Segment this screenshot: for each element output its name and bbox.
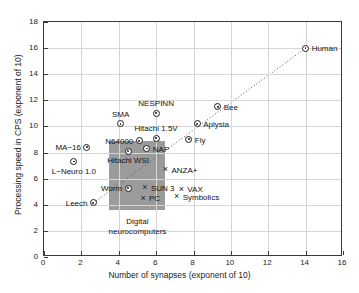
- y-gridline: [44, 126, 341, 127]
- data-point-label: Symbolics: [183, 192, 219, 201]
- data-point-marker: [125, 148, 132, 155]
- y-gridline: [44, 100, 341, 101]
- y-tick-label: 18: [16, 17, 38, 26]
- x-tick-label: 12: [263, 258, 272, 267]
- data-point-marker: ×: [140, 195, 147, 202]
- data-point-marker: ×: [162, 166, 169, 173]
- data-point-marker: [153, 110, 160, 117]
- y-tick-label: 4: [16, 199, 38, 208]
- data-point-label: ANZA+: [171, 165, 197, 174]
- y-gridline: [44, 231, 341, 232]
- y-gridline: [44, 48, 341, 49]
- x-tick: [44, 251, 45, 255]
- x-tick-label: 8: [190, 258, 194, 267]
- y-tick-label: 6: [16, 173, 38, 182]
- y-tick-label: 12: [16, 95, 38, 104]
- data-point-marker: [302, 45, 309, 52]
- region-label: Digitalneurocomputers: [109, 217, 167, 237]
- data-point-label: Hitachi WSI: [107, 156, 149, 165]
- region-label-line1: Digital: [126, 217, 148, 226]
- x-gridline: [306, 22, 307, 255]
- data-point-label: Fly: [195, 135, 206, 144]
- data-point-label: Bee: [224, 102, 238, 111]
- x-tick: [231, 251, 232, 255]
- y-tick-label: 16: [16, 43, 38, 52]
- plot-area: DigitalneurocomputersLeechFlyAplysiaBeeH…: [43, 21, 342, 256]
- x-tick-label: 4: [116, 258, 120, 267]
- x-tick: [343, 251, 344, 255]
- y-tick-label: 0: [16, 252, 38, 261]
- data-point-label: SUN 3: [151, 183, 175, 192]
- x-tick-label: 16: [338, 258, 347, 267]
- y-tick: [44, 48, 48, 49]
- data-point-marker: [153, 135, 160, 142]
- y-tick: [44, 153, 48, 154]
- y-tick: [44, 231, 48, 232]
- chart-figure: DigitalneurocomputersLeechFlyAplysiaBeeH…: [0, 0, 359, 293]
- y-tick: [44, 126, 48, 127]
- y-axis-title: Processing speed in CPS (exponent of 10): [13, 54, 23, 215]
- data-point-marker: ×: [141, 184, 148, 191]
- data-point-marker: [125, 185, 132, 192]
- y-gridline: [44, 74, 341, 75]
- data-point-label: Hitachi 1.5V: [135, 124, 178, 133]
- x-tick-label: 10: [225, 258, 234, 267]
- data-point-label: Leech: [66, 198, 88, 207]
- x-tick: [268, 251, 269, 255]
- y-tick-label: 8: [16, 147, 38, 156]
- y-tick-label: 14: [16, 69, 38, 78]
- y-tick: [44, 100, 48, 101]
- x-gridline: [268, 22, 269, 255]
- y-tick: [44, 74, 48, 75]
- x-tick: [156, 251, 157, 255]
- y-gridline: [44, 179, 341, 180]
- x-gridline: [231, 22, 232, 255]
- data-point-marker: ×: [173, 193, 180, 200]
- y-gridline: [44, 153, 341, 154]
- data-point-label: Worm: [101, 184, 122, 193]
- data-point-label: L−Neuro 1.0: [52, 167, 96, 176]
- y-tick: [44, 22, 48, 23]
- region-label-line2: neurocomputers: [109, 227, 167, 236]
- x-tick: [81, 251, 82, 255]
- y-tick: [44, 179, 48, 180]
- x-tick-label: 14: [300, 258, 309, 267]
- data-point-label: Human: [312, 44, 338, 53]
- y-gridline: [44, 205, 341, 206]
- y-tick: [44, 205, 48, 206]
- data-point-label: NAP: [153, 144, 169, 153]
- x-tick: [306, 251, 307, 255]
- x-axis-title: Number of synapses (exponent of 10): [0, 270, 359, 280]
- data-point-label: NESPINN: [138, 99, 174, 108]
- data-point-label: MA−16: [55, 143, 81, 152]
- data-point-label: SMA: [112, 110, 129, 119]
- x-tick-label: 6: [153, 258, 157, 267]
- data-point-label: N64000: [105, 136, 133, 145]
- y-tick-label: 2: [16, 225, 38, 234]
- data-point-label: Aplysia: [203, 119, 229, 128]
- data-point-label: PC: [149, 194, 160, 203]
- x-gridline: [81, 22, 82, 255]
- x-tick: [194, 251, 195, 255]
- x-tick: [119, 251, 120, 255]
- x-tick-label: 0: [41, 258, 45, 267]
- y-tick-label: 10: [16, 121, 38, 130]
- x-tick-label: 2: [78, 258, 82, 267]
